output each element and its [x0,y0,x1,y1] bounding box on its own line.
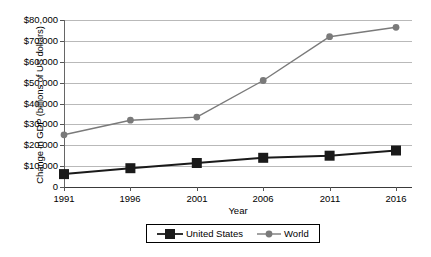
x-axis-title: Year [64,205,412,216]
series-layer [64,20,412,187]
data-point-marker [325,151,335,161]
data-point-marker [326,33,333,40]
x-axis-line [64,187,412,188]
data-point-marker [193,114,200,121]
y-axis-tick-label: $80,000 [6,14,58,25]
x-axis-tick-label: 2001 [174,193,220,204]
data-point-marker [393,24,400,31]
gdp-line-chart: Change in GDP (billions of US dollars) 0… [0,0,431,257]
legend-item-world: World [257,228,309,240]
legend-marker-square-icon [157,228,183,240]
x-axis-tick-label: 1991 [41,193,87,204]
legend-label-united-states: United States [186,228,243,239]
chart-legend: United States World [146,224,320,243]
data-point-marker [59,169,69,179]
data-point-marker [125,163,135,173]
data-point-marker [258,153,268,163]
legend-marker-circle-icon [257,228,281,240]
series-line-world [64,27,396,135]
x-axis-tick-label: 2016 [373,193,419,204]
x-axis-tick-mark [130,187,131,191]
x-axis-tick-mark [64,187,65,191]
plot-area: 199119962001200620112016 [64,20,412,187]
y-axis-tick-label: 0 [6,181,58,192]
y-axis-tick-label: $10,000 [6,160,58,171]
data-point-marker [260,77,267,84]
x-axis-tick-label: 2006 [240,193,286,204]
x-axis-tick-mark [396,187,397,191]
data-point-marker [192,158,202,168]
legend-label-world: World [284,228,309,239]
x-axis-tick-mark [197,187,198,191]
x-axis-tick-mark [330,187,331,191]
data-point-marker [61,131,68,138]
x-axis-tick-label: 2011 [307,193,353,204]
y-axis-tick-label: $40,000 [6,98,58,109]
y-axis-tick-label: $70,000 [6,35,58,46]
y-axis-tick-label: $60,000 [6,56,58,67]
legend-item-united-states: United States [157,228,243,240]
x-axis-tick-label: 1996 [107,193,153,204]
y-axis-tick-label: $30,000 [6,118,58,129]
data-point-marker [391,146,401,156]
y-axis-tick-label: $50,000 [6,77,58,88]
data-point-marker [127,117,134,124]
series-line-united-states [64,151,396,175]
y-axis-tick-label: $20,000 [6,139,58,150]
x-axis-tick-mark [263,187,264,191]
